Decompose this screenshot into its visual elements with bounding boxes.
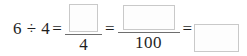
- fraction-first-numerator: [69, 4, 98, 34]
- math-problem-canvas: 6 ÷ 4 = 4 = 100 =: [0, 0, 247, 56]
- answer-box-numerator-2[interactable]: [123, 5, 175, 30]
- fraction-first: 4: [65, 4, 102, 53]
- equals-sign-3: =: [183, 20, 193, 37]
- expression-left-operand: 6 ÷ 4: [13, 20, 50, 37]
- fraction-first-denominator: 4: [79, 35, 88, 53]
- equals-sign-1: =: [52, 20, 62, 37]
- answer-box-final[interactable]: [194, 24, 239, 52]
- equation-row: 6 ÷ 4 = 4 = 100 =: [0, 0, 247, 56]
- fraction-second-numerator: [123, 5, 175, 32]
- final-answer-wrap: [194, 24, 239, 52]
- equals-sign-2: =: [105, 20, 115, 37]
- fraction-second: 100: [118, 5, 180, 51]
- answer-box-numerator-1[interactable]: [69, 4, 98, 32]
- fraction-second-denominator: 100: [135, 33, 162, 51]
